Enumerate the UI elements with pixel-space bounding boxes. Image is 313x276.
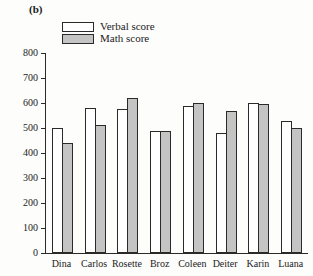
legend-item-verbal-score: Verbal score: [62, 21, 182, 32]
x-axis-tick-label: Rosette: [111, 259, 144, 269]
y-axis-tick-mark: [41, 178, 45, 179]
bar-series-container: [46, 53, 308, 253]
bar-group: [85, 53, 106, 253]
y-axis-tick-label: 100: [23, 223, 38, 233]
x-axis-tick-label: Broz: [143, 259, 176, 269]
y-axis-tick-mark: [41, 78, 45, 79]
plot-area: 0100200300400500600700800 DinaCarlosRose…: [45, 53, 308, 253]
y-axis-tick-label: 800: [23, 48, 38, 58]
bar-math-score: [160, 131, 171, 253]
bar-math-score: [127, 98, 138, 253]
x-axis-tick-label: Karin: [242, 259, 275, 269]
y-axis-tick-mark: [41, 53, 45, 54]
x-axis-tick-label: Carlos: [78, 259, 111, 269]
legend-item-math-score: Math score: [62, 33, 182, 44]
y-axis-tick-mark: [41, 128, 45, 129]
y-axis-tick-label: 700: [23, 73, 38, 83]
bar-group: [117, 53, 138, 253]
x-axis-tick-label: Luana: [274, 259, 307, 269]
y-axis-tick-label: 400: [23, 148, 38, 158]
bar-group: [281, 53, 302, 253]
bar-math-score: [62, 143, 73, 253]
y-axis-tick-mark: [41, 103, 45, 104]
bar-chart-figure: (b) Verbal score Math score 010020030040…: [0, 0, 313, 276]
bar-math-score: [226, 111, 237, 253]
bar-group: [216, 53, 237, 253]
panel-label: (b): [29, 3, 42, 15]
bar-math-score: [258, 104, 269, 254]
legend-label-verbal-score: Verbal score: [100, 21, 155, 32]
y-axis-tick-label: 0: [33, 248, 38, 258]
y-axis-tick-label: 600: [23, 98, 38, 108]
bar-math-score: [193, 103, 204, 253]
y-axis-tick-label: 300: [23, 173, 38, 183]
x-axis-tick-label: Coleen: [176, 259, 209, 269]
x-axis-tick-label: Dina: [45, 259, 78, 269]
bar-group: [52, 53, 73, 253]
y-axis-tick-mark: [41, 203, 45, 204]
x-axis-line: [45, 253, 308, 254]
chart-legend: Verbal score Math score: [62, 21, 182, 45]
y-axis-tick-mark: [41, 253, 45, 254]
legend-swatch-verbal-score: [62, 22, 94, 32]
y-axis-tick-label: 200: [23, 198, 38, 208]
legend-swatch-math-score: [62, 34, 94, 44]
legend-label-math-score: Math score: [100, 33, 149, 44]
y-axis-tick-mark: [41, 228, 45, 229]
bar-math-score: [291, 128, 302, 253]
y-axis-tick-label: 500: [23, 123, 38, 133]
bar-group: [183, 53, 204, 253]
y-axis-tick-mark: [41, 153, 45, 154]
x-axis-tick-label: Deiter: [209, 259, 242, 269]
bar-math-score: [95, 125, 106, 253]
bar-group: [150, 53, 171, 253]
bar-group: [248, 53, 269, 253]
